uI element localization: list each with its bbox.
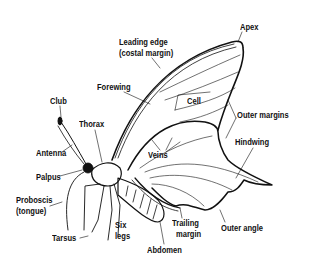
head-shape: [83, 163, 93, 173]
label-tarsus: Tarsus: [52, 234, 76, 244]
label-veins: Veins: [148, 151, 168, 161]
club-shape: [58, 117, 62, 125]
label-outer-angle: Outer angle: [221, 224, 263, 234]
label-cell: Cell: [187, 97, 201, 107]
forewing-shape: [112, 41, 243, 160]
label-six: Six: [115, 221, 126, 231]
label-antenna: Antenna: [36, 149, 66, 159]
label-hindwing: Hindwing: [235, 138, 269, 148]
label-forewing: Forewing: [97, 83, 131, 93]
label-trailing-margin: margin: [176, 230, 201, 240]
butterfly-diagram: Apex Leading edge (costal margin) Forewi…: [0, 0, 310, 267]
label-abdomen: Abdomen: [147, 246, 182, 256]
label-outer-margins: Outer margins: [237, 111, 289, 121]
label-tongue: (tongue): [16, 207, 46, 217]
label-club: Club: [50, 97, 67, 107]
label-proboscis: Proboscis: [16, 196, 53, 206]
label-costal-margin: (costal margin): [119, 49, 173, 59]
label-palpus: Palpus: [36, 173, 61, 183]
label-leading-edge: Leading edge: [119, 38, 168, 48]
proboscis-shape: [67, 172, 84, 230]
label-trailing: Trailing: [172, 219, 199, 229]
label-apex: Apex: [240, 23, 258, 33]
label-thorax: Thorax: [79, 120, 104, 130]
thorax-shape: [92, 163, 122, 186]
label-legs: legs: [115, 232, 130, 242]
hindwing-shape: [128, 121, 272, 210]
